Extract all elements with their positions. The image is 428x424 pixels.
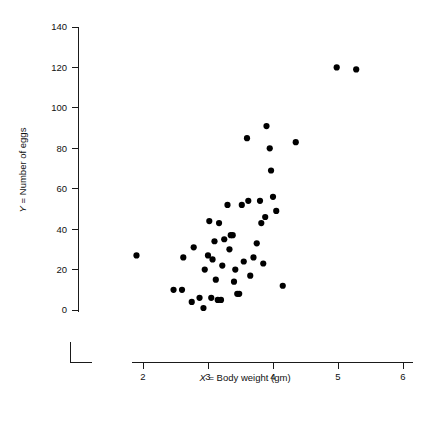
data-point xyxy=(191,244,197,250)
data-point xyxy=(206,218,212,224)
data-point xyxy=(232,266,238,272)
y-axis-title-text: = Number of eggs xyxy=(17,127,28,206)
data-point xyxy=(268,167,274,173)
y-axis-title: Y = Number of eggs xyxy=(17,127,28,212)
scatter-plot-canvas: 020406080100120140 23456 X = Body weight… xyxy=(0,0,428,424)
data-point xyxy=(257,198,263,204)
scatter-plot-figure: 020406080100120140 23456 X = Body weight… xyxy=(0,0,428,424)
data-point xyxy=(219,262,225,268)
data-point xyxy=(180,254,186,260)
data-point xyxy=(216,220,222,226)
data-point xyxy=(226,246,232,252)
data-point xyxy=(260,260,266,266)
data-point xyxy=(179,287,185,293)
data-point xyxy=(254,240,260,246)
data-point xyxy=(247,273,253,279)
data-point xyxy=(218,297,224,303)
y-tick-label: 20 xyxy=(56,264,67,275)
y-tick-label: 100 xyxy=(51,102,67,113)
data-point xyxy=(196,295,202,301)
y-axis-ticks: 020406080100120140 xyxy=(51,21,78,315)
data-point xyxy=(189,299,195,305)
y-tick-label: 0 xyxy=(62,304,67,315)
y-tick-label: 140 xyxy=(51,21,67,32)
data-point xyxy=(293,139,299,145)
data-point xyxy=(270,194,276,200)
data-point xyxy=(239,202,245,208)
data-point xyxy=(224,202,230,208)
data-point xyxy=(213,277,219,283)
data-point xyxy=(353,66,359,72)
data-point xyxy=(211,238,217,244)
x-tick-label: 6 xyxy=(400,371,405,382)
y-tick-label: 120 xyxy=(51,62,67,73)
x-axis-title-text: = Body weight (gm) xyxy=(206,372,291,383)
data-points-layer xyxy=(133,64,359,311)
data-point xyxy=(334,64,340,70)
y-tick-label: 60 xyxy=(56,183,67,194)
data-point xyxy=(202,266,208,272)
data-point xyxy=(208,295,214,301)
x-axis-title: X = Body weight (gm) xyxy=(198,372,290,383)
data-point xyxy=(241,258,247,264)
data-point xyxy=(280,283,286,289)
data-point xyxy=(221,236,227,242)
data-point xyxy=(263,123,269,129)
y-tick-label: 40 xyxy=(56,224,67,235)
data-point xyxy=(258,220,264,226)
data-point xyxy=(230,232,236,238)
data-point xyxy=(200,305,206,311)
x-tick-label: 5 xyxy=(335,371,340,382)
data-point xyxy=(262,214,268,220)
data-point xyxy=(133,252,139,258)
data-point xyxy=(250,254,256,260)
data-point xyxy=(231,279,237,285)
data-point xyxy=(209,256,215,262)
data-point xyxy=(267,145,273,151)
data-point xyxy=(273,208,279,214)
y-tick-label: 80 xyxy=(56,143,67,154)
data-point xyxy=(236,291,242,297)
x-tick-label: 2 xyxy=(140,371,145,382)
data-point xyxy=(245,198,251,204)
data-point xyxy=(244,135,250,141)
data-point xyxy=(170,287,176,293)
axis-break-corner xyxy=(71,342,93,362)
